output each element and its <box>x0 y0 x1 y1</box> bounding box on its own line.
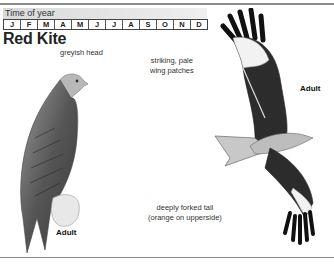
frame-bottom-border <box>0 257 334 258</box>
perched-adult-label: Adult <box>56 228 76 237</box>
month-cell: J <box>4 20 21 29</box>
frame-top-border <box>0 3 334 5</box>
species-title: Red Kite <box>3 30 66 48</box>
month-cell: M <box>72 20 89 29</box>
perched-red-kite-illustration <box>5 68 95 258</box>
month-cell: O <box>157 20 174 29</box>
head-annotation: greyish head <box>60 48 103 58</box>
month-cell: A <box>55 20 72 29</box>
month-cell: M <box>38 20 55 29</box>
month-cell: A <box>123 20 140 29</box>
tail-annotation: deeply forked tail (orange on upperside) <box>148 203 222 223</box>
month-cell: J <box>106 20 123 29</box>
tail-annotation-line1: deeply forked tail <box>148 203 222 213</box>
month-cell: J <box>89 20 106 29</box>
month-cell: S <box>140 20 157 29</box>
month-bar: J F M A M J J A S O N D <box>3 19 208 30</box>
month-cell: F <box>21 20 38 29</box>
flying-adult-label: Adult <box>300 84 320 93</box>
time-of-year-header: Time of year <box>3 8 207 19</box>
tail-annotation-line2: (orange on upperside) <box>148 213 222 223</box>
